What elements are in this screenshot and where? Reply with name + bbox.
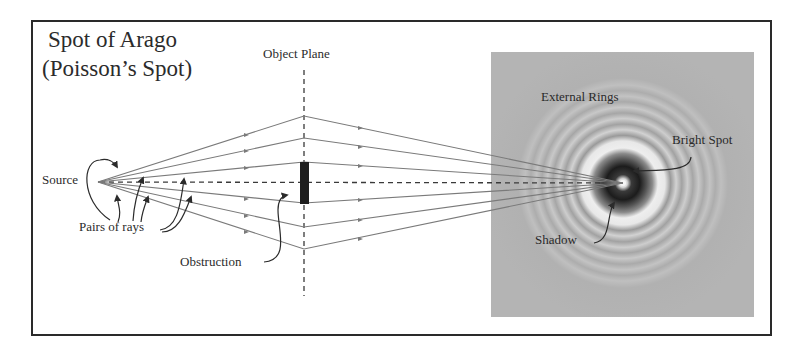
ray-diagram <box>0 0 800 359</box>
obstruction-arrow <box>264 195 287 262</box>
title-line-1: Spot of Arago <box>48 27 177 53</box>
pairs-arrow-2 <box>133 178 143 221</box>
pairs-arrow-4 <box>160 179 184 230</box>
diffraction-screen <box>491 52 754 317</box>
obstruction <box>300 162 309 204</box>
external-rings-label: External Rings <box>541 89 619 105</box>
shadow-label: Shadow <box>535 232 577 248</box>
bright-spot-label: Bright Spot <box>672 132 732 148</box>
object-plane-label: Object Plane <box>263 46 330 62</box>
obstruction-label: Obstruction <box>180 254 241 270</box>
source-label: Source <box>42 172 78 188</box>
title-line-2: (Poisson’s Spot) <box>42 56 192 82</box>
pairs-of-rays-label: Pairs of rays <box>79 219 144 235</box>
source-arrow <box>87 159 117 220</box>
diagram-stage: Spot of Arago (Poisson’s Spot) Object Pl… <box>0 0 800 359</box>
